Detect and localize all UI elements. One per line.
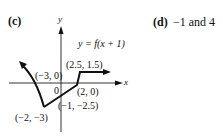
function-label: y = f(x + 1) (78, 39, 125, 49)
point-label-neg3-0: (−3, 0) (35, 71, 62, 81)
point-label-neg2-neg3: (−2, −3) (15, 113, 48, 123)
point-label-neg1-neg2.5: (−1, −2.5) (58, 101, 98, 111)
part-d-answer: −1 and 4 (173, 16, 215, 28)
point-label-2-0: (2, 0) (77, 87, 99, 97)
x-axis-label: x (124, 78, 128, 87)
y-axis-label: y (58, 15, 62, 24)
curve-right-arrow-icon (103, 69, 111, 75)
y-axis-arrow-icon (59, 26, 64, 34)
part-d-label: (d) (153, 16, 168, 28)
point-label-2.5-1.5: (2.5, 1.5) (66, 60, 103, 70)
x-axis-arrow-icon (115, 81, 123, 86)
origin-label: 0 (54, 86, 59, 96)
